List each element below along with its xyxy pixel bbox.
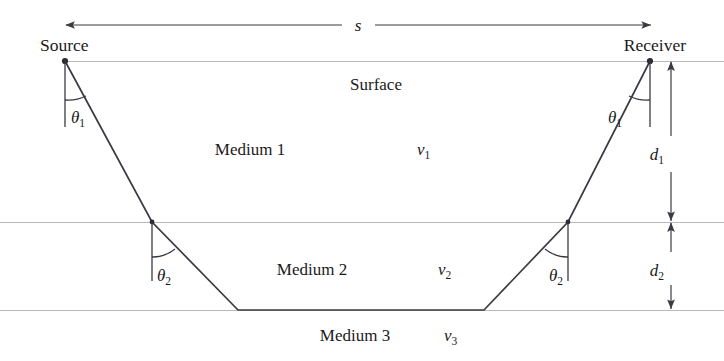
- medium1-label: Medium 1: [215, 140, 285, 159]
- angle-arc-theta1-left: [65, 96, 86, 100]
- thickness-label-d1: d1: [650, 145, 665, 166]
- angle-arc-theta2-left: [152, 249, 175, 257]
- medium2-label: Medium 2: [277, 260, 347, 279]
- seismic-refraction-diagram: s Source Receiver θ1 θ1 θ2 θ2 d1: [0, 0, 724, 361]
- angle-label-theta2-right: θ2: [549, 266, 563, 287]
- thickness-label-d2: d2: [650, 261, 665, 282]
- angle-arc-theta2-right: [545, 249, 568, 257]
- offset-label-s: s: [355, 16, 362, 35]
- velocity-label-v1: v1: [417, 140, 431, 161]
- diagram-canvas: s Source Receiver θ1 θ1 θ2 θ2 d1: [0, 0, 724, 361]
- surface-label: Surface: [350, 75, 402, 94]
- angle-label-theta2-left: θ2: [157, 266, 171, 287]
- velocity-label-v2: v2: [438, 260, 452, 281]
- source-label: Source: [40, 35, 89, 55]
- velocity-label-v3: v3: [444, 326, 458, 347]
- medium3-label: Medium 3: [320, 326, 390, 345]
- angle-label-theta1-right: θ1: [608, 108, 622, 129]
- receiver-label: Receiver: [624, 35, 686, 55]
- angle-label-theta1-left: θ1: [71, 108, 85, 129]
- raypath-polyline: [65, 61, 650, 310]
